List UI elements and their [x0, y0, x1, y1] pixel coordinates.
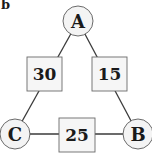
node-label: A — [70, 11, 86, 32]
edge-weight-label: 15 — [98, 64, 122, 84]
edge-weight-box-A-C: 30 — [27, 57, 62, 91]
node-label: B — [130, 124, 145, 145]
node-A: A — [63, 6, 93, 36]
triangle-graph-diagram: 301525 ABC — [0, 0, 152, 157]
node-C: C — [0, 119, 30, 149]
node-label: C — [8, 124, 22, 145]
node-B: B — [123, 119, 152, 149]
edge-weight-label: 30 — [33, 64, 57, 84]
edge-weight-box-A-B: 15 — [92, 57, 127, 91]
edge-weight-boxes: 301525 — [27, 57, 127, 152]
edge-weight-box-C-B: 25 — [59, 118, 95, 152]
edge-weight-label: 25 — [65, 125, 89, 145]
